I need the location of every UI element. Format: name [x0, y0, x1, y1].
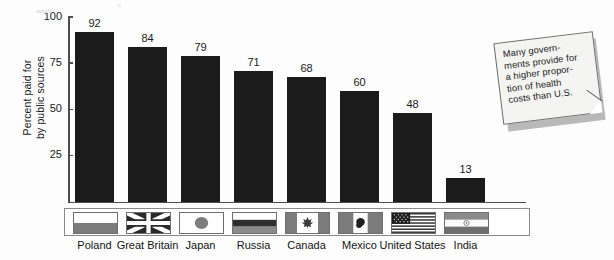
bar [393, 113, 432, 202]
country-label-japan: Japan [186, 239, 216, 251]
bar-group: 48 [386, 10, 439, 202]
bar-group: 92 [68, 10, 121, 202]
mexico-flag [338, 212, 383, 234]
callout-note-text: Many govern- ments provide for a higher … [502, 39, 592, 107]
bar [181, 56, 220, 202]
bar-group: 84 [121, 10, 174, 202]
bar-group: 71 [227, 10, 280, 202]
y-axis-tick-label: 50 [22, 103, 62, 114]
japan-flag [179, 212, 224, 234]
flag-cell [228, 212, 281, 234]
country-label-india: India [454, 239, 478, 251]
flag-cell [440, 212, 493, 234]
bar-group: 79 [174, 10, 227, 202]
country-label-russia: Russia [237, 239, 271, 251]
bar [128, 47, 167, 202]
poland-flag [73, 212, 118, 234]
great-britain-flag [126, 212, 171, 234]
flag-legend-strip [64, 208, 530, 236]
bar-value-label: 48 [386, 99, 439, 110]
y-axis-tick-label: 25 [22, 149, 62, 160]
flag-cell [175, 212, 228, 234]
flag-cell [387, 212, 440, 234]
country-label-united-states: United States [379, 239, 445, 251]
bar-value-label: 92 [68, 18, 121, 29]
country-label-great-britain: Great Britain [117, 239, 179, 251]
russia-flag [232, 212, 277, 234]
callout-note-fold-icon [588, 100, 602, 114]
country-label-canada: Canada [287, 239, 326, 251]
y-axis-tick-label: 75 [22, 57, 62, 68]
country-label-poland: Poland [77, 239, 111, 251]
bar [75, 32, 114, 202]
country-label-mexico: Mexico [342, 239, 377, 251]
bar-value-label: 84 [121, 33, 174, 44]
callout-note-paper: Many govern- ments provide for a higher … [493, 31, 602, 125]
plot-area: 9284797168604813 [68, 10, 526, 202]
callout-note: Many govern- ments provide for a higher … [497, 36, 605, 132]
flag-cell [334, 212, 387, 234]
bar-group: 13 [439, 10, 492, 202]
bar-group: 68 [280, 10, 333, 202]
india-flag [444, 212, 489, 234]
bar-chart: Percent paid for by public sources 10075… [0, 0, 614, 260]
flag-cell [69, 212, 122, 234]
bar [446, 178, 485, 202]
united-states-flag [391, 212, 436, 234]
flag-cell [122, 212, 175, 234]
bar [340, 91, 379, 202]
bar-value-label: 79 [174, 42, 227, 53]
flag-cell [281, 212, 334, 234]
bar-value-label: 60 [333, 77, 386, 88]
bar-value-label: 71 [227, 57, 280, 68]
bar-value-label: 68 [280, 63, 333, 74]
canada-flag [285, 212, 330, 234]
bar [234, 71, 273, 202]
bar [287, 77, 326, 202]
scan-speck [118, 4, 121, 7]
bar-group: 60 [333, 10, 386, 202]
scan-speck [36, 10, 52, 13]
bar-value-label: 13 [439, 164, 492, 175]
